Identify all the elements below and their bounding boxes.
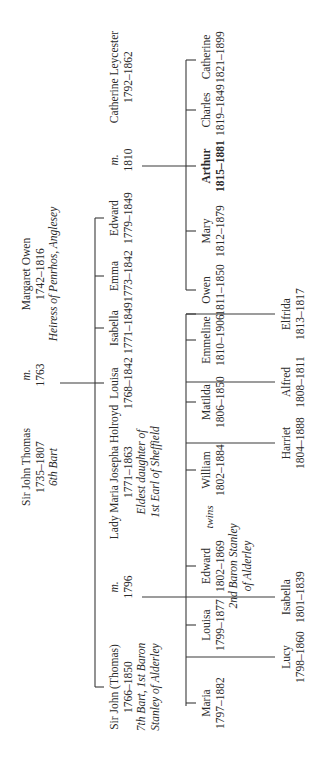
person-dates: 1812–1879	[214, 205, 228, 257]
person-sir-john-thomas: Sir John Thomas 1735–1807 6th Bart	[20, 428, 61, 506]
person-name: Elfrida	[280, 288, 294, 340]
person-note: 2nd Baron Stanley	[227, 523, 241, 608]
person-dates: 1798–1860	[294, 631, 308, 683]
person-note: Eldest daughter of	[135, 405, 149, 539]
person-dates: 1768–1842	[122, 357, 136, 409]
person-note: Heiress of Penrhos, Anglesey	[47, 207, 61, 342]
person-dates: 1802–1884	[214, 444, 228, 496]
twins-label: twins	[203, 505, 215, 528]
person-dates: 1819–1849	[214, 84, 228, 136]
person-name: Catherine	[200, 31, 214, 83]
person-name: Arthur	[200, 140, 214, 192]
person-dates: 1771–1849	[122, 302, 136, 354]
person-name: Sir John (Thomas)	[108, 643, 122, 731]
marriage-1763: m. 1763	[20, 364, 47, 387]
person-name: Maria	[200, 677, 214, 729]
marriage-label: m.	[20, 364, 34, 387]
person-name: Mary	[200, 205, 214, 257]
person-name: Isabella	[280, 571, 294, 623]
person-name: Lady Maria Josepha Holroyd	[108, 405, 122, 539]
person-maria-1797: Maria 1797–1882	[200, 677, 227, 729]
person-dates: 1802–1869	[214, 523, 228, 608]
marriage-year: 1763	[34, 364, 46, 387]
person-emmeline-1810: Emmeline 1810–1906	[200, 314, 227, 366]
person-sir-john-thomas-jr: Sir John (Thomas) 1766–1850 7th Bart, 1s…	[108, 643, 162, 731]
person-harriet-1804: Harriet 1804–1888	[280, 417, 307, 469]
person-name: Harriet	[280, 417, 294, 469]
person-lucy-1798: Lucy 1798–1860	[280, 631, 307, 683]
person-name: Charles	[200, 84, 214, 136]
marriage-label: m.	[108, 149, 122, 172]
person-dates: 1804–1888	[294, 417, 308, 469]
person-name: Edward	[108, 192, 122, 244]
person-name: William	[200, 444, 214, 496]
person-dates: 1797–1882	[214, 677, 228, 729]
person-name: Catherine Leycester	[108, 31, 122, 123]
marriage-year: 1796	[122, 576, 134, 599]
family-tree-diagram: Sir John Thomas 1735–1807 6th Bart m. 17…	[0, 0, 332, 757]
person-name: Isabella	[108, 302, 122, 354]
person-note: 7th Bart, 1st Baron	[135, 643, 149, 731]
person-edward-1779: Edward 1779–1849	[108, 192, 135, 244]
person-dates: 1815–1881	[214, 140, 228, 192]
person-lady-maria-josepha-holroyd: Lady Maria Josepha Holroyd 1771–1863 Eld…	[108, 405, 162, 539]
person-isabella-1801: Isabella 1801–1839	[280, 571, 307, 623]
person-dates: 1811–1850	[214, 264, 228, 315]
person-charles-1819: Charles 1819–1849	[200, 84, 227, 136]
person-name: Matilda	[200, 376, 214, 428]
person-name: Emma	[108, 250, 122, 302]
person-note: Stanley of Alderley	[149, 643, 163, 731]
person-note: of Alderley	[241, 523, 255, 608]
person-dates: 1821–1899	[214, 31, 228, 83]
person-dates: 1771–1863	[122, 405, 136, 539]
person-dates: 1813–1817	[294, 288, 308, 340]
person-mary-1812: Mary 1812–1879	[200, 205, 227, 257]
person-note: 1st Earl of Sheffield	[149, 405, 163, 539]
person-dates: 1801–1839	[294, 571, 308, 623]
person-edward-1802: Edward 1802–1869 2nd Baron Stanley of Al…	[200, 523, 254, 608]
person-dates: 1810–1906	[214, 314, 228, 366]
marriage-1810: m. 1810	[108, 149, 135, 172]
person-alfred-1808: Alfred 1808–1811	[280, 356, 307, 407]
person-name: Louisa	[108, 357, 122, 409]
person-catherine-leycester: Catherine Leycester 1792–1862	[108, 31, 135, 123]
person-emma-1773: Emma 1773–1842	[108, 250, 135, 302]
marriage-1796: m. 1796	[108, 576, 135, 599]
person-dates: 1806–1850	[214, 376, 228, 428]
person-catherine-1821: Catherine 1821–1899	[200, 31, 227, 83]
person-name: Sir John Thomas	[20, 428, 34, 506]
person-name: Lucy	[280, 631, 294, 683]
person-note: 6th Bart	[47, 428, 61, 506]
person-dates: 1766–1850	[122, 643, 136, 731]
person-dates: 1808–1811	[294, 356, 308, 407]
person-dates: 1773–1842	[122, 250, 136, 302]
marriage-label: m.	[108, 576, 122, 599]
person-elfrida-1813: Elfrida 1813–1817	[280, 288, 307, 340]
person-margaret-owen: Margaret Owen 1742–1816 Heiress of Penrh…	[20, 207, 61, 342]
person-william-1802: William 1802–1884	[200, 444, 227, 496]
person-dates: 1792–1862	[122, 31, 136, 123]
person-isabella-1771: Isabella 1771–1849	[108, 302, 135, 354]
person-name: Edward	[200, 523, 214, 608]
marriage-year: 1810	[122, 149, 134, 172]
person-dates: 1735–1807	[34, 428, 48, 506]
person-name: Alfred	[280, 356, 294, 407]
person-name: Emmeline	[200, 314, 214, 366]
person-matilda-1806: Matilda 1806–1850	[200, 376, 227, 428]
person-dates: 1779–1849	[122, 192, 136, 244]
person-arthur-1815: Arthur 1815–1881	[200, 140, 227, 192]
person-owen-1811: Owen 1811–1850	[200, 264, 227, 315]
person-name: Margaret Owen	[20, 207, 34, 342]
person-louisa-1768: Louisa 1768–1842	[108, 357, 135, 409]
person-dates: 1742–1816	[34, 207, 48, 342]
person-name: Owen	[200, 264, 214, 315]
